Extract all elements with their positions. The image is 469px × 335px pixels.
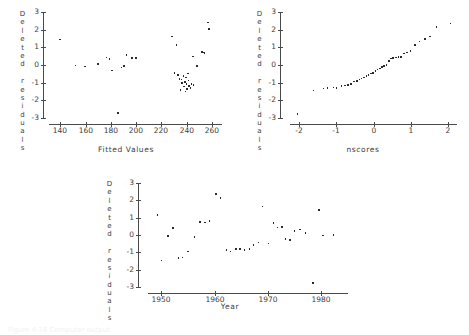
data-point xyxy=(294,230,296,232)
x-axis-tick-label: 180 xyxy=(97,127,125,135)
data-point xyxy=(190,87,192,89)
y-axis-tick xyxy=(41,65,46,66)
y-axis-tick xyxy=(41,12,46,13)
data-point xyxy=(123,65,125,67)
data-point xyxy=(188,80,190,82)
y-axis-tick xyxy=(278,12,283,13)
y-axis-tick xyxy=(41,83,46,84)
y-axis-title-char xyxy=(18,69,27,77)
data-point xyxy=(253,244,255,246)
chart-panel-residuals-vs-fitted: Deleted residuals 3210-1-2-3140160180200… xyxy=(0,0,235,170)
y-axis-title-char: l xyxy=(105,306,114,314)
data-point xyxy=(299,229,301,231)
data-point xyxy=(258,242,260,244)
data-point xyxy=(161,260,163,262)
y-axis-title-char: D xyxy=(105,180,114,188)
y-axis-title-char: e xyxy=(105,222,114,230)
y-axis-tick-label: -1 xyxy=(114,248,134,256)
data-point xyxy=(379,68,381,70)
data-point xyxy=(398,56,400,58)
data-point xyxy=(196,65,198,67)
y-axis-tick-label: 2 xyxy=(114,196,134,204)
data-point xyxy=(97,63,99,65)
data-point xyxy=(388,60,390,62)
data-point xyxy=(414,44,416,46)
data-point xyxy=(333,234,335,236)
y-axis-tick xyxy=(41,47,46,48)
y-axis-tick-label: 3 xyxy=(114,179,134,187)
data-point xyxy=(281,226,283,228)
data-point xyxy=(194,236,196,238)
y-axis-title-char: s xyxy=(105,264,114,272)
data-point xyxy=(372,72,374,74)
data-point xyxy=(106,57,108,59)
data-point xyxy=(363,77,365,79)
data-point xyxy=(450,23,452,25)
data-point xyxy=(318,209,320,211)
y-axis-tick-label: 2 xyxy=(19,26,39,34)
data-point xyxy=(75,65,77,67)
data-point xyxy=(178,257,180,259)
data-point xyxy=(350,83,352,85)
y-axis-tick-label: 1 xyxy=(256,43,276,51)
data-point xyxy=(199,221,201,223)
data-point xyxy=(121,67,123,69)
y-axis-title-char xyxy=(255,69,264,77)
data-point xyxy=(249,248,251,250)
data-point xyxy=(341,85,343,87)
data-point xyxy=(209,220,211,222)
y-axis-tick xyxy=(136,235,141,236)
data-point xyxy=(268,243,270,245)
data-point xyxy=(207,22,209,24)
data-point xyxy=(235,248,237,250)
data-point xyxy=(204,222,206,224)
y-axis-title-char: d xyxy=(105,230,114,238)
data-point xyxy=(59,39,61,41)
data-point xyxy=(185,77,187,79)
data-point xyxy=(187,73,189,75)
y-axis-tick-label: 0 xyxy=(19,61,39,69)
y-axis-title-char: e xyxy=(255,86,264,94)
data-point xyxy=(111,70,113,72)
y-axis-title-char: a xyxy=(105,297,114,305)
data-point xyxy=(403,53,405,55)
y-axis-title-char: i xyxy=(105,272,114,280)
data-point xyxy=(176,44,178,46)
y-axis-tick-label: 1 xyxy=(19,43,39,51)
data-point xyxy=(180,89,182,91)
y-axis-tick-label: -3 xyxy=(256,114,276,122)
data-point xyxy=(305,232,307,234)
y-axis-tick-label: -2 xyxy=(256,96,276,104)
data-point xyxy=(167,235,169,237)
y-axis-tick xyxy=(136,270,141,271)
data-point xyxy=(215,193,217,195)
data-point xyxy=(244,249,246,251)
x-axis-tick-label: 260 xyxy=(198,127,226,135)
y-axis-title-panel3: Deleted residuals xyxy=(105,180,114,323)
y-axis-tick-label: 2 xyxy=(256,26,276,34)
data-point xyxy=(289,239,291,241)
y-axis-title-char: e xyxy=(255,52,264,60)
x-axis-title-panel3: Year xyxy=(140,303,320,311)
x-axis-tick-label: 220 xyxy=(147,127,175,135)
y-axis-title-char: e xyxy=(105,188,114,196)
data-point xyxy=(297,113,299,115)
x-axis-tick-label: 0 xyxy=(360,127,388,135)
y-axis-tick-label: -2 xyxy=(114,266,134,274)
y-axis-tick-label: -1 xyxy=(19,79,39,87)
data-point xyxy=(356,80,358,82)
y-axis-tick-label: -3 xyxy=(19,114,39,122)
data-point xyxy=(172,227,174,229)
y-axis-tick xyxy=(41,100,46,101)
x-axis-tick-label: 160 xyxy=(72,127,100,135)
data-point xyxy=(262,206,264,208)
y-axis-title-char: i xyxy=(18,102,27,110)
data-point xyxy=(336,87,338,89)
data-point xyxy=(353,81,355,83)
y-axis-title-char: e xyxy=(105,205,114,213)
y-axis-tick xyxy=(278,83,283,84)
data-point xyxy=(220,197,222,199)
data-point xyxy=(410,50,412,52)
y-axis-title-char: u xyxy=(105,289,114,297)
y-axis-title-char: a xyxy=(255,127,264,135)
